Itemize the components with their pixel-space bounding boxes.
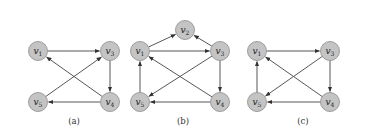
node-v3: v3 [321, 42, 340, 61]
edge-v1-to-v2 [149, 34, 176, 47]
caption-graph-c: (c) [297, 116, 308, 126]
graph-b: v2v1v3v5v4(b) [131, 21, 230, 127]
edge-v4-to-v1 [149, 57, 212, 97]
node-v5: v5 [248, 93, 267, 112]
node-v5: v5 [131, 93, 150, 112]
edge-v3-to-v5 [149, 56, 212, 96]
edge-v3-to-v2 [194, 35, 212, 46]
node-v1: v1 [131, 42, 150, 61]
node-v5: v5 [29, 93, 48, 112]
edge-v4-to-v1 [266, 57, 323, 97]
node-v1: v1 [29, 42, 48, 61]
node-v3: v3 [211, 42, 230, 61]
node-v4: v4 [321, 93, 340, 112]
caption-graph-a: (a) [68, 116, 80, 126]
node-v1: v1 [248, 42, 267, 61]
node-v3: v3 [101, 42, 120, 61]
edge-v3-to-v5 [266, 56, 323, 96]
edge-v5-to-v3 [46, 57, 102, 96]
graph-c: v1v3v5v4(c) [248, 42, 340, 127]
node-v4: v4 [211, 93, 230, 112]
caption-graph-b: (b) [177, 116, 189, 126]
graph-a: v1v3v5v4(a) [29, 42, 120, 127]
node-v4: v4 [101, 93, 120, 112]
node-v2: v2 [176, 21, 195, 40]
edge-v4-to-v1 [47, 57, 103, 96]
directed-graphs-figure: v1v3v5v4(a) v2v1v3v5v4(b) v1v3v5v4(c) [0, 0, 366, 135]
